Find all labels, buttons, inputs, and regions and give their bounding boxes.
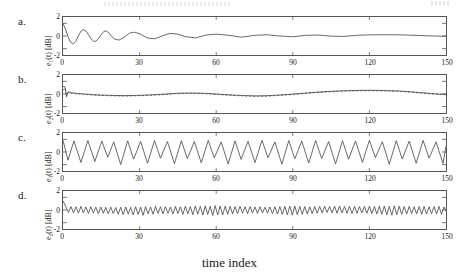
panel-c-xtick-60: 60	[204, 174, 228, 183]
panel-a-xticklabels: 0 30 60 90 120 150	[0, 58, 459, 68]
panel-a-xtick-150: 150	[435, 58, 459, 67]
panel-c-curve	[63, 140, 446, 164]
page-header-band	[0, 0, 459, 11]
page-folio-smudge	[431, 1, 451, 5]
panel-d-ytick-2: 2	[50, 186, 60, 195]
panel-b-plot	[63, 75, 446, 113]
panel-d-xtick-0: 0	[50, 232, 74, 241]
panel-b-xticklabels: 0 30 60 90 120 150	[0, 116, 459, 126]
figure: a. e₁(t) [dB] 2 0 -2 0 30 60	[0, 11, 459, 278]
panel-d-letter: d.	[18, 189, 27, 201]
panel-d-axes	[62, 190, 447, 230]
xaxis-title: time index	[0, 255, 459, 271]
panel-d-xtick-30: 30	[127, 232, 151, 241]
panel-c-ytick-2: 2	[50, 128, 60, 137]
panel-b: b. e₂(t) [dB] 2 0 -2 0 30	[0, 69, 459, 127]
panel-b-xtick-60: 60	[204, 116, 228, 125]
panel-d: d. e₄(t) [dB] 2 0 -2 0 30 60	[0, 185, 459, 243]
panel-c-xtick-120: 120	[358, 174, 382, 183]
panel-b-xtick-30: 30	[127, 116, 151, 125]
panel-b-xtick-90: 90	[281, 116, 305, 125]
running-head-smudge	[104, 2, 232, 6]
panel-c: c. e₃(t) [dB] 2 0 -2 0 30 60	[0, 127, 459, 185]
panel-a-ytick-2: 2	[50, 12, 60, 21]
panel-b-xtick-150: 150	[435, 116, 459, 125]
panel-a-xtick-90: 90	[281, 58, 305, 67]
panel-a-xtick-60: 60	[204, 58, 228, 67]
panel-a-letter: a.	[18, 15, 26, 27]
panel-d-plot	[63, 191, 446, 229]
panel-b-axes	[62, 74, 447, 114]
panel-d-curve	[63, 201, 446, 216]
panel-c-xtick-90: 90	[281, 174, 305, 183]
panel-d-ytick-0: 0	[50, 206, 60, 215]
panel-c-xtick-150: 150	[435, 174, 459, 183]
panel-c-ytick-0: 0	[50, 148, 60, 157]
panel-b-ytick-0: 0	[50, 90, 60, 99]
panel-a-ytick-0: 0	[50, 32, 60, 41]
panel-d-xtick-90: 90	[281, 232, 305, 241]
panel-c-letter: c.	[18, 131, 26, 143]
panel-a-axes	[62, 16, 447, 56]
panel-a-xtick-120: 120	[358, 58, 382, 67]
panel-d-xtick-60: 60	[204, 232, 228, 241]
panel-a-curve	[63, 23, 446, 44]
panel-a-plot	[63, 17, 446, 55]
panel-b-letter: b.	[18, 73, 27, 85]
panel-d-xtick-150: 150	[435, 232, 459, 241]
panel-c-xticklabels: 0 30 60 90 120 150	[0, 174, 459, 184]
panel-c-xtick-30: 30	[127, 174, 151, 183]
panel-a: a. e₁(t) [dB] 2 0 -2 0 30 60	[0, 11, 459, 69]
panel-b-ytick-2: 2	[50, 70, 60, 79]
panel-a-xtick-30: 30	[127, 58, 151, 67]
panel-c-axes	[62, 132, 447, 172]
panel-c-plot	[63, 133, 446, 171]
panel-b-xtick-120: 120	[358, 116, 382, 125]
panel-d-xticklabels: 0 30 60 90 120 150	[0, 232, 459, 242]
panel-d-xtick-120: 120	[358, 232, 382, 241]
